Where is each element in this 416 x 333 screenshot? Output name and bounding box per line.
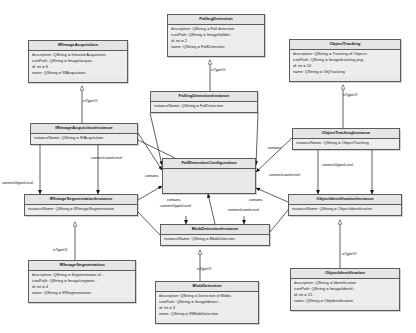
edge-label-isTypeOf: isTypeOf — [343, 94, 357, 98]
uml-class-ir-image-segmentation[interactable]: IRImageSegmentationdescription: QString … — [28, 260, 136, 303]
edge-label-isTypeOf: isTypeOf — [197, 268, 211, 272]
uml-class-title: BlobDetectionInstance — [161, 225, 269, 235]
uml-class-falling-detection[interactable]: FallingDetectiondescription: QString = F… — [167, 14, 265, 57]
uml-attribute: instanceName: QString = IRAcquisition — [34, 135, 135, 141]
uml-class-title: ObjectIdentificationInstance — [289, 195, 401, 205]
uml-class-title: BlobDetection — [156, 282, 258, 292]
uml-attribute-list: description: QString = Segmentation of..… — [29, 271, 135, 298]
edge-label-contains: contains — [145, 175, 158, 179]
uml-attribute-list: description: QString = Fall detectionico… — [168, 25, 264, 52]
uml-class-ir-image-acquisition-instance[interactable]: IRImageAcquisitionInstanceinstanceName: … — [30, 123, 138, 145]
uml-class-title: FallDetectionConfiguration — [163, 159, 255, 169]
uml-attribute-list: description: QString = Detection of Blob… — [156, 292, 258, 319]
edge-label-connectLowerLevel: connectLowerLevel — [91, 157, 122, 161]
uml-class-fall-detection-configuration[interactable]: FallDetectionConfiguration — [162, 158, 256, 194]
uml-class-title: IRImageAcquisition — [29, 41, 127, 51]
uml-class-title: ObjectTracking — [290, 40, 400, 50]
uml-class-title: ObjectIdentification — [291, 269, 399, 279]
uml-attribute: instanceName: QString = ObjectTracking — [296, 140, 397, 146]
uml-class-object-identification-instance[interactable]: ObjectIdentificationInstanceinstanceName… — [288, 194, 402, 216]
edge-label-isTypeOf: isTypeOf — [342, 253, 356, 257]
edge-label-connectUpperLevel: connectUpperLevel — [322, 164, 353, 168]
uml-attribute-list: description: QString = Identificationico… — [291, 279, 399, 306]
uml-class-title: IRImageSegmentationInstance — [25, 195, 137, 205]
uml-attribute-list: instanceName: QString = ObjectIdentifica… — [289, 205, 401, 215]
uml-attribute: name: QString = IRBlobDetection — [159, 311, 256, 317]
uml-class-title: FallingDetection — [168, 15, 264, 25]
uml-attribute: name: QString = IRAcquisition — [32, 70, 125, 76]
edge-label-isTypeOf: isTypeOf — [211, 69, 225, 73]
uml-class-title: IRImageSegmentation — [29, 261, 135, 271]
edge-label-connectUpperLevel: connectUpperLevel — [2, 182, 33, 186]
edge-label-connectUpperLevel: connectUpperLevel — [160, 205, 191, 209]
uml-attribute: name: QString = ObjIdentification — [294, 298, 397, 304]
uml-class-falling-detection-instance[interactable]: FallingDetectionInstanceinstanceName: QS… — [150, 91, 258, 113]
uml-attribute: instanceName: QString = FallDetection — [154, 103, 255, 109]
uml-attribute: instanceName: QString = ObjectIdentifica… — [292, 206, 399, 212]
uml-attribute: name: QString = ObjTracking — [293, 69, 398, 75]
uml-attribute-list — [163, 169, 255, 173]
uml-attribute-list: instanceName: QString = IRImageSegmentat… — [25, 205, 137, 215]
uml-class-title: ObjectTrackingInstance — [293, 129, 399, 139]
uml-attribute-list: instanceName: QString = FallDetection — [151, 102, 257, 112]
uml-attribute-list: instanceName: QString = IRAcquisition — [31, 134, 137, 144]
uml-attribute: name: QString = IRSegmentation — [32, 290, 133, 296]
edge-label-contains: contains — [167, 199, 180, 203]
uml-class-title: FallingDetectionInstance — [151, 92, 257, 102]
uml-class-ir-image-acquisition[interactable]: IRImageAcquisitiondescription: QString =… — [28, 40, 128, 83]
uml-class-blob-detection[interactable]: BlobDetectiondescription: QString = Dete… — [155, 281, 259, 324]
uml-diagram-canvas: IRImageAcquisitiondescription: QString =… — [0, 0, 416, 333]
edge-label-contains: contains — [249, 199, 262, 203]
uml-class-object-tracking[interactable]: ObjectTrackingdescription: QString = Tra… — [289, 39, 401, 82]
uml-attribute: instanceName: QString = BlobDetection — [164, 236, 267, 242]
uml-attribute-list: instanceName: QString = BlobDetection — [161, 235, 269, 245]
edge-label-connectLowerLevel: connectLowerLevel — [269, 174, 300, 178]
uml-attribute: instanceName: QString = IRImageSegmentat… — [28, 206, 135, 212]
edge-label-isTypeOf: isTypeOf — [83, 100, 97, 104]
edge-label-contains: contains — [268, 147, 281, 151]
edge-label-connectLowerLevel: connectLowerLevel — [228, 209, 259, 213]
uml-class-title: IRImageAcquisitionInstance — [31, 124, 137, 134]
edge-label-isTypeOf: isTypeOf — [53, 249, 67, 253]
uml-attribute-list: instanceName: QString = ObjectTracking — [293, 139, 399, 149]
uml-class-ir-image-segmentation-instance[interactable]: IRImageSegmentationInstanceinstanceName:… — [24, 194, 138, 216]
uml-class-blob-detection-instance[interactable]: BlobDetectionInstanceinstanceName: QStri… — [160, 224, 270, 246]
uml-class-object-identification[interactable]: ObjectIdentificationdescription: QString… — [290, 268, 400, 311]
uml-attribute-list: description: QString = Tracking of Objec… — [290, 50, 400, 77]
uml-class-object-tracking-instance[interactable]: ObjectTrackingInstanceinstanceName: QStr… — [292, 128, 400, 150]
uml-attribute-list: description: QString = Infrared Acquisit… — [29, 51, 127, 78]
uml-attribute: name: QString = FallDetection — [171, 44, 262, 50]
